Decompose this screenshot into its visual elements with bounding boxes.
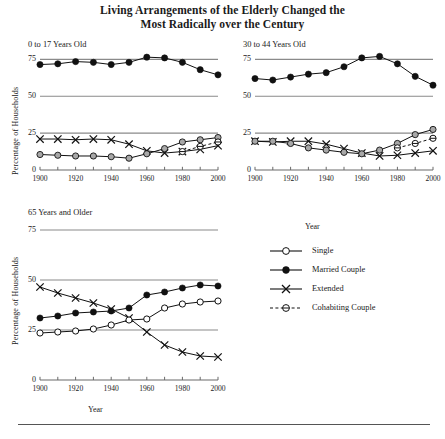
series-extended <box>251 138 436 160</box>
legend-marker-filled-circle <box>268 262 306 278</box>
series-married-couple <box>37 282 221 321</box>
x-tick-1-1980: 1980 <box>381 174 413 183</box>
x-tick-2-1940: 1940 <box>95 384 127 393</box>
y-tick-1-25: 25 <box>231 128 251 137</box>
series-married-couple <box>37 54 221 78</box>
x-tick-1-1960: 1960 <box>346 174 378 183</box>
x-tick-0-1980: 1980 <box>166 174 198 183</box>
series-extended <box>36 135 221 156</box>
chart-svg-2 <box>18 216 222 396</box>
x-tick-0-1940: 1940 <box>95 174 127 183</box>
x-tick-2-1920: 1920 <box>60 384 92 393</box>
x-tick-1-2000: 2000 <box>417 174 445 183</box>
y-tick-2-0: 0 <box>16 375 36 384</box>
figure-living-arrangements: Living Arrangements of the Elderly Chang… <box>0 0 445 439</box>
y-tick-0-0: 0 <box>16 165 36 174</box>
legend-heading: Year <box>305 222 320 231</box>
y-tick-2-50: 50 <box>16 275 36 284</box>
x-tick-2-1980: 1980 <box>166 384 198 393</box>
series-single <box>252 126 436 157</box>
chart-svg-0 <box>18 48 222 186</box>
legend-label: Cohabiting Couple <box>312 303 376 312</box>
x-tick-2-1900: 1900 <box>24 384 56 393</box>
chart-svg-1 <box>233 48 437 186</box>
y-tick-1-0: 0 <box>231 165 251 174</box>
footer-divider <box>18 424 430 425</box>
series-married-couple <box>252 53 436 88</box>
x-tick-1-1920: 1920 <box>275 174 307 183</box>
x-tick-1-1900: 1900 <box>239 174 271 183</box>
y-tick-2-25: 25 <box>16 325 36 334</box>
y-tick-2-75: 75 <box>16 225 36 234</box>
y-tick-0-50: 50 <box>16 91 36 100</box>
x-tick-0-1960: 1960 <box>131 174 163 183</box>
y-tick-0-75: 75 <box>16 54 36 63</box>
x-tick-0-1900: 1900 <box>24 174 56 183</box>
x-tick-2-2000: 2000 <box>202 384 234 393</box>
figure-title-line-1: Living Arrangements of the Elderly Chang… <box>100 4 345 16</box>
y-tick-0-25: 25 <box>16 128 36 137</box>
figure-title-line-2: Most Radically over the Century <box>141 18 305 30</box>
legend-marker-cross-x <box>268 281 306 297</box>
legend-marker-circle-dash <box>268 300 306 316</box>
legend-marker-open-circle <box>268 243 306 259</box>
y-tick-1-50: 50 <box>231 91 251 100</box>
x-tick-0-1920: 1920 <box>60 174 92 183</box>
x-axis-label-panel-65-older: Year <box>88 405 103 414</box>
x-tick-2-1960: 1960 <box>131 384 163 393</box>
legend-label: Single <box>312 246 333 255</box>
legend-label: Extended <box>312 284 344 293</box>
x-tick-0-2000: 2000 <box>202 174 234 183</box>
figure-title: Living Arrangements of the Elderly Chang… <box>0 3 445 31</box>
legend-label: Married Couple <box>312 265 365 274</box>
y-tick-1-75: 75 <box>231 54 251 63</box>
x-tick-1-1940: 1940 <box>310 174 342 183</box>
